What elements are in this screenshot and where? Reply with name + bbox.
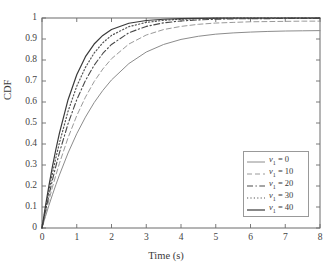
y-tick-label: 0 xyxy=(6,222,37,232)
legend-line-sample xyxy=(246,154,266,166)
legend-item-label: ν1 = 20 xyxy=(269,178,293,190)
cdf-chart-figure: 00.10.20.30.40.50.60.70.80.91012345678 C… xyxy=(0,0,332,274)
y-tick-label: 0.1 xyxy=(6,201,37,211)
legend-item-3: ν1 = 30 xyxy=(246,190,305,202)
legend-item-label: ν1 = 10 xyxy=(269,166,293,178)
legend-line-sample xyxy=(246,202,266,214)
legend-item-1: ν1 = 10 xyxy=(246,166,305,178)
legend-line-sample xyxy=(246,166,266,178)
x-tick-label: 3 xyxy=(131,232,161,242)
legend-item-label: ν1 = 40 xyxy=(269,202,293,214)
x-tick-label: 4 xyxy=(166,232,196,242)
x-tick-label: 0 xyxy=(27,232,57,242)
legend-item-label: ν1 = 0 xyxy=(269,154,289,166)
y-tick-label: 0.3 xyxy=(6,159,37,169)
y-tick-label: 0.5 xyxy=(6,117,37,127)
x-tick-label: 2 xyxy=(97,232,127,242)
y-tick-label: 1 xyxy=(6,12,37,22)
x-tick-label: 5 xyxy=(201,232,231,242)
y-tick-label: 0.4 xyxy=(6,138,37,148)
x-tick-label: 1 xyxy=(62,232,92,242)
legend-item-2: ν1 = 20 xyxy=(246,178,305,190)
x-tick-label: 7 xyxy=(270,232,300,242)
x-tick-label: 6 xyxy=(236,232,266,242)
y-tick-label: 0.8 xyxy=(6,54,37,64)
legend-item-label: ν1 = 30 xyxy=(269,190,293,202)
y-axis-title: CDF xyxy=(2,80,13,100)
y-tick-label: 0.2 xyxy=(6,180,37,190)
legend-line-sample xyxy=(246,178,266,190)
y-tick-label: 0.9 xyxy=(6,33,37,43)
chart-legend: ν1 = 0ν1 = 10ν1 = 20ν1 = 30ν1 = 40 xyxy=(243,151,309,217)
legend-line-sample xyxy=(246,190,266,202)
legend-item-0: ν1 = 0 xyxy=(246,154,305,166)
x-axis-title: Time (s) xyxy=(0,250,332,261)
legend-item-4: ν1 = 40 xyxy=(246,202,305,214)
x-tick-label: 8 xyxy=(305,232,332,242)
